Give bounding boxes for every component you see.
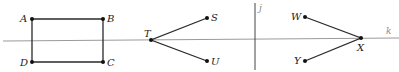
line-k-label: k	[386, 26, 391, 36]
label-t: T	[144, 28, 152, 39]
point-c	[101, 60, 105, 64]
label-s: S	[211, 12, 218, 23]
point-u	[205, 59, 209, 63]
point-b	[101, 17, 105, 21]
label-d: D	[19, 57, 28, 68]
point-a	[30, 17, 34, 21]
point-s	[205, 16, 209, 20]
label-w: W	[291, 11, 302, 22]
line-k	[3, 38, 399, 41]
point-w	[303, 15, 307, 19]
point-x	[359, 36, 363, 40]
line-j-label: j	[257, 3, 262, 13]
label-b: B	[106, 13, 114, 24]
label-a: A	[19, 13, 27, 24]
label-c: C	[107, 57, 115, 68]
geometry-figure: k j A B C D T S U W X Y	[0, 0, 399, 72]
label-x: X	[356, 42, 365, 53]
point-d	[30, 60, 34, 64]
point-y	[303, 59, 307, 63]
label-y: Y	[294, 55, 302, 66]
label-u: U	[211, 56, 220, 67]
